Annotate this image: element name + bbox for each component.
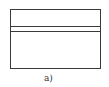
figure-caption: a) [44, 73, 53, 83]
divider-line-lower [10, 31, 101, 32]
divider-line-upper [10, 26, 101, 27]
outer-rectangle [10, 9, 101, 69]
